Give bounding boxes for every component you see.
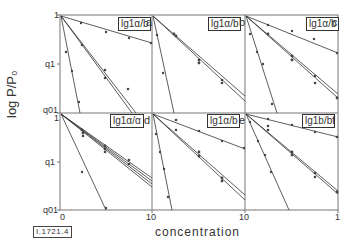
panel-d-points [81, 129, 131, 210]
panel-d-letter: d [144, 114, 150, 126]
panel-b-label: lg1α/b [208, 17, 241, 31]
y-tick-top-q1: q1 [45, 59, 55, 69]
x-axis-title: concentration [155, 225, 240, 239]
x-tick-1: 1 [335, 212, 340, 222]
panel-a-points [65, 22, 152, 103]
x-tick-10a: 10 [146, 212, 156, 222]
x-tick-0: 0 [60, 212, 65, 222]
figure-id-label: I.1721.4 [33, 226, 72, 238]
panel-f-letter: f [332, 114, 335, 126]
y-tick-bottom-q01: q01 [43, 205, 58, 215]
panel-b-letter: b [239, 16, 245, 28]
y-tick-top-1: 1 [54, 10, 59, 20]
panel-d-label: lg1α/α [110, 114, 144, 128]
panel-c-points [249, 24, 339, 105]
panel-e-lines [153, 114, 245, 210]
panel-d-lines [61, 114, 152, 210]
panel-e-letter: e [239, 114, 245, 126]
y-axis-title: log P/P₀ [4, 71, 19, 118]
y-tick-bottom-q1: q1 [45, 157, 55, 167]
panel-frames [57, 15, 338, 213]
panel-a-letter: a [146, 16, 152, 28]
panel-e-label: lg1α/b [207, 114, 240, 128]
panel-f-lines [246, 114, 338, 210]
panel-c-letter: c [332, 16, 338, 28]
y-tick-bottom-1: 1 [54, 113, 59, 123]
panel-f-label: lg1b/b [302, 114, 335, 128]
x-tick-10b: 10 [239, 212, 249, 222]
